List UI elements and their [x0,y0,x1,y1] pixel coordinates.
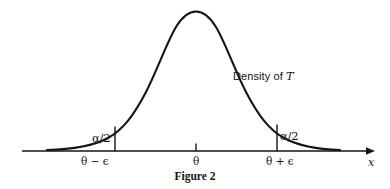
tick-label-theta-minus-epsilon: θ − ϵ [81,156,109,167]
x-axis-label: x [368,157,374,168]
left-tail-area-label: α/2 [92,133,110,145]
figure-container: α/2 α/2 θ − ϵ θ θ + ϵ x Density of T Fig… [0,0,390,189]
density-annotation-symbol: T [286,69,294,83]
tick-label-theta-plus-epsilon: θ + ϵ [266,156,294,167]
density-annotation-text: Density of [233,70,286,82]
right-tail-area-label: α/2 [280,131,298,143]
figure-caption: Figure 2 [0,170,390,182]
tick-label-theta: θ [193,156,199,167]
density-curve-annotation: Density of T [233,71,294,83]
x-axis-arrowhead [366,147,375,155]
